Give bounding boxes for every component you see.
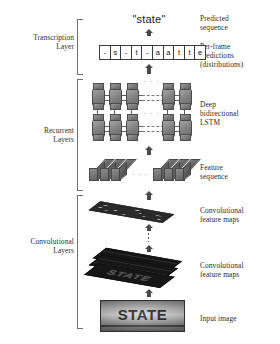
input-image: STATE [100,300,185,332]
left-label-transcription: Transcription Layer [2,33,74,51]
arrow-up-between-conv-layers [144,224,153,231]
arrow-up-to-conv-stack [144,245,153,252]
arrow-up-to-lstm [144,146,153,155]
lstm-cell [107,83,122,110]
lstm-cell [90,114,105,141]
left-label-convolutional: Convolutional Layers [2,237,74,255]
lstm-cell [160,83,175,110]
right-label-feature-sequence: Feature sequence [200,163,278,181]
lstm-ellipsis: · · · [144,110,160,117]
lstm-cell [107,114,122,141]
arrow-up-to-per-frame-predictions [144,64,153,74]
right-label-per-frame-predictions: Per-frame predictions (distributions) [200,42,278,70]
frame-cell: e [194,45,206,60]
left-label-recurrent: Recurrent Layers [2,126,74,144]
predicted-word: "state" [118,13,180,25]
arrow-up-to-conv-layers [144,289,153,297]
bracket-convolutional [77,195,83,329]
lstm-cell [124,114,139,141]
feature-sequence-ellipsis: · · · [132,171,148,178]
lstm-cell [90,83,105,110]
right-label-conv-feature-maps-bottom: Convolutional feature maps [200,261,278,279]
lstm-cell [177,83,192,110]
feature-sequence-block: · · · [84,159,196,185]
conv-feature-map-top [90,201,173,222]
right-label-deep-bilstm: Deep bidirectional LSTM [200,100,278,128]
conv-stack-vertical-ellipsis [148,233,150,244]
arrow-up-to-predicted-word [144,29,153,36]
per-frame-prediction-row: - s - t - a a t t e [99,45,205,60]
lstm-cell [160,114,175,141]
bracket-recurrent [77,79,83,191]
lstm-cell [124,83,139,110]
crnn-architecture-figure: Transcription Layer Recurrent Layers Con… [0,0,280,344]
right-label-conv-feature-maps-top: Convolutional feature maps [200,206,278,224]
right-label-predicted-sequence: Predicted sequence [200,14,278,32]
right-label-input-image: Input image [200,314,278,323]
deep-bidirectional-lstm-block: · · · · · · [88,80,196,142]
bracket-transcription [77,19,83,75]
arrow-up-to-feature-sequence [144,191,153,200]
lstm-cell [177,114,192,141]
input-image-vignette [101,301,184,331]
lstm-ellipsis: · · · [144,78,160,85]
